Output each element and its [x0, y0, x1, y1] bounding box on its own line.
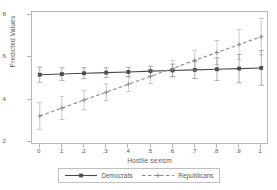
x-tick-mark	[238, 144, 239, 148]
x-tick-label: .1	[51, 147, 71, 154]
x-tick-mark	[172, 144, 173, 148]
x-tick-label: .7	[184, 147, 204, 154]
x-tick-label: 1	[250, 147, 270, 154]
x-tick-label: .8	[206, 147, 226, 154]
legend-item-republicans[interactable]: Republicans	[141, 171, 213, 180]
data-point-marker	[126, 70, 130, 74]
x-tick-mark	[127, 144, 128, 148]
x-tick-label: .2	[73, 147, 93, 154]
data-point-marker	[259, 66, 263, 70]
data-point-marker	[82, 71, 86, 75]
data-point-marker	[237, 67, 241, 71]
plot-area	[31, 11, 268, 144]
data-point-marker	[38, 73, 42, 77]
legend-item-democrats[interactable]: Democrats	[64, 171, 132, 180]
x-tick-mark	[216, 144, 217, 148]
x-tick-label: .3	[95, 147, 115, 154]
y-tick-label: 8	[0, 10, 6, 17]
x-tick-label: .5	[140, 147, 160, 154]
x-tick-mark	[83, 144, 84, 148]
data-point-marker	[60, 72, 64, 76]
legend-swatch-cross	[141, 171, 175, 180]
chart-container: Predicted Values 8642 0.1.2.3.4.5.6.7.8.…	[0, 0, 277, 190]
y-tick-label: 6	[0, 52, 6, 59]
data-point-marker	[215, 67, 219, 71]
x-tick-label: .6	[162, 147, 182, 154]
x-tick-label: .4	[117, 147, 137, 154]
legend-label: Republicans	[178, 172, 213, 179]
legend-swatch-filled-square	[64, 171, 98, 180]
x-axis-title: Hostile sexism	[31, 157, 268, 164]
x-tick-mark	[260, 144, 261, 148]
x-tick-mark	[39, 144, 40, 148]
x-tick-mark	[150, 144, 151, 148]
chart-legend: DemocratsRepublicans	[58, 168, 220, 183]
x-tick-mark	[194, 144, 195, 148]
plot-svg	[32, 12, 269, 145]
x-tick-mark	[61, 144, 62, 148]
legend-label: Democrats	[101, 172, 132, 179]
y-tick-label: 4	[0, 95, 6, 102]
x-tick-mark	[105, 144, 106, 148]
data-point-marker	[104, 71, 108, 75]
y-axis-title: Predicted Values	[9, 0, 16, 90]
x-tick-label: .9	[228, 147, 248, 154]
y-tick-label: 2	[0, 137, 6, 144]
x-tick-label: 0	[29, 147, 49, 154]
